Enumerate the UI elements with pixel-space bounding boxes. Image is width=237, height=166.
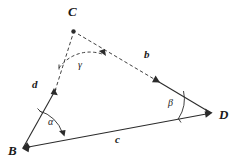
geometry-diagram-canvas: C D B d b c α β γ	[0, 0, 237, 166]
angle-label-beta: β	[168, 98, 173, 108]
angle-label-alpha: α	[48, 117, 53, 127]
side-b-arrowhead	[152, 76, 160, 83]
vertex-label-B: B	[8, 144, 17, 157]
angle-label-gamma: γ	[78, 60, 82, 70]
vertex-label-D: D	[219, 108, 228, 121]
side-d-group	[23, 34, 73, 148]
side-d-arrowhead	[51, 88, 58, 95]
angle-alpha-tick	[38, 109, 42, 113]
side-b-dashed-segment	[78, 34, 154, 79]
angle-gamma-arrowhead	[99, 49, 106, 56]
side-label-b: b	[144, 49, 150, 60]
angle-alpha-arrowhead	[59, 130, 66, 137]
angle-gamma-arc-group	[59, 49, 106, 70]
vertex-label-C: C	[68, 5, 77, 18]
vertex-c-dot	[71, 29, 75, 33]
side-b-group	[78, 34, 211, 113]
side-b-solid-segment	[154, 79, 211, 113]
side-label-c: c	[115, 134, 120, 145]
side-label-d: d	[32, 79, 38, 90]
